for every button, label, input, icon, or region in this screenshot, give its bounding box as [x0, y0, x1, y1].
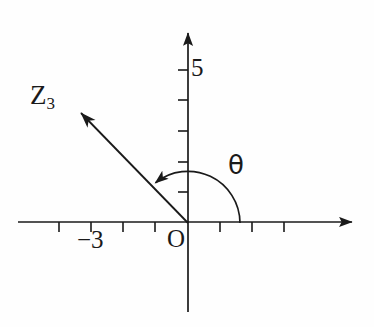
- vector-label-base: Z: [30, 80, 47, 110]
- diagram-canvas: [0, 0, 374, 327]
- origin-label: O: [167, 226, 185, 251]
- vector-z3-line: [81, 113, 188, 223]
- vector-z3-group: [81, 113, 188, 223]
- vector-label-z3: Z3: [30, 82, 55, 112]
- y-axis-tick-label-5: 5: [191, 55, 204, 80]
- vector-label-subscript: 3: [47, 94, 56, 113]
- x-axis-tick-label-minus3: −3: [77, 227, 104, 252]
- angle-label-theta: θ: [228, 152, 244, 178]
- figure-root: Z3 5 −3 O θ: [0, 0, 374, 327]
